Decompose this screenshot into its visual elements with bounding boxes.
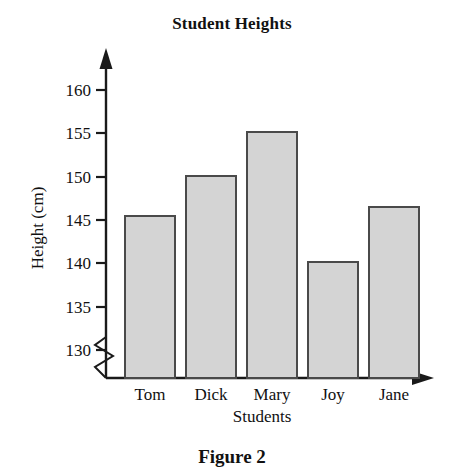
y-tick-label-135: 135 (66, 298, 92, 317)
y-tick-label-160: 160 (66, 81, 92, 100)
y-tick-label-140: 140 (66, 254, 92, 273)
bar-jane[interactable] (369, 207, 419, 378)
bar-dick[interactable] (186, 176, 236, 378)
x-label-mary: Mary (254, 385, 291, 404)
axis-break-zigzag (95, 337, 113, 378)
y-tick-label-145: 145 (66, 211, 92, 230)
y-axis (100, 48, 113, 378)
y-axis-tick-labels: 160 155 150 145 140 135 130 (66, 81, 92, 360)
bar-joy[interactable] (308, 262, 358, 378)
y-axis-title: Height (cm) (28, 187, 47, 270)
x-label-dick: Dick (194, 385, 228, 404)
bars-group (125, 132, 419, 378)
y-axis-ticks (96, 90, 106, 350)
x-axis-category-labels: Tom Dick Mary Joy Jane (135, 385, 410, 404)
y-tick-label-155: 155 (66, 124, 92, 143)
x-label-joy: Joy (321, 385, 345, 404)
bar-mary[interactable] (247, 132, 297, 378)
x-label-tom: Tom (135, 385, 166, 404)
x-axis-title: Students (233, 407, 292, 426)
y-tick-label-130: 130 (66, 341, 92, 360)
y-tick-label-150: 150 (66, 168, 92, 187)
bar-tom[interactable] (125, 216, 175, 378)
bar-chart-plot: 160 155 150 145 140 135 130 Height (cm) … (0, 0, 464, 446)
x-label-jane: Jane (379, 385, 409, 404)
figure-caption: Figure 2 (0, 446, 464, 468)
